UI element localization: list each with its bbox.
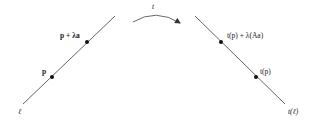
label-t-p: t(p): [260, 68, 271, 76]
line-t-l: [195, 16, 285, 104]
line-l: [23, 16, 115, 104]
transform-label: t: [152, 3, 154, 11]
diagram-svg: [0, 0, 314, 124]
label-p: p: [42, 68, 46, 76]
label-t-p-plus-lambda-Aa: t(p) + λ(Aa): [227, 32, 263, 40]
label-p-plus-lambda-a: p + λa: [60, 32, 80, 40]
label-line-t-l: t(ℓ): [288, 108, 298, 116]
diagram-canvas: t p + λa p ℓ t(p) + λ(Aa) t(p) t(ℓ): [0, 0, 314, 124]
point-t-p: [254, 75, 258, 79]
transform-arrow: [133, 15, 180, 23]
point-t-p-plus-lambda-Aa: [219, 40, 223, 44]
label-line-l: ℓ: [18, 108, 21, 116]
point-p-plus-lambda-a: [85, 40, 89, 44]
point-p: [50, 75, 54, 79]
